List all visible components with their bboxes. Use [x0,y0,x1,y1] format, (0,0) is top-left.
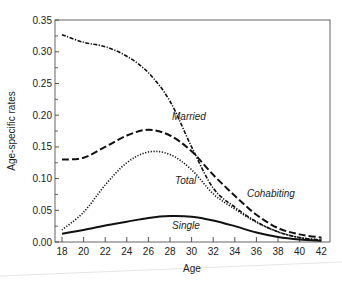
x-tick-label: 20 [78,246,90,257]
y-tick-label: 0.15 [33,141,53,152]
plot-frame [55,20,330,242]
series-labels: MarriedCohabitingTotalSingle [172,111,295,231]
y-tick-label: 0.25 [33,78,53,89]
x-tick-label: 34 [229,246,241,257]
x-axis-title: Age [183,263,201,274]
y-axis-title: Age-specific rates [6,91,17,170]
x-tick-label: 38 [272,246,284,257]
x-tick-label: 30 [186,246,198,257]
y-tick-label: 0.35 [33,15,53,26]
x-tick-label: 18 [56,246,68,257]
line-chart: 0.000.050.100.150.200.250.300.35 1820222… [0,0,342,286]
series-line-married [62,35,321,240]
y-tick-label: 0.10 [33,173,53,184]
x-tick-label: 28 [164,246,176,257]
series-label-single: Single [172,220,200,231]
y-tick-label: 0.05 [33,205,53,216]
x-tick-label: 42 [316,246,328,257]
series-label-cohabiting: Cohabiting [247,188,295,199]
y-tick-label: 0.00 [33,237,53,248]
x-axis: 18202224262830323436384042 [56,237,327,257]
y-tick-label: 0.30 [33,46,53,57]
x-tick-label: 40 [294,246,306,257]
series-label-total: Total [175,175,197,186]
x-tick-label: 36 [251,246,263,257]
x-tick-label: 32 [208,246,220,257]
series-lines [62,35,321,241]
x-tick-label: 24 [121,246,133,257]
scan-artifact-line [0,262,342,276]
y-tick-label: 0.20 [33,110,53,121]
x-tick-label: 26 [143,246,155,257]
x-tick-label: 22 [100,246,112,257]
series-label-married: Married [172,111,206,122]
